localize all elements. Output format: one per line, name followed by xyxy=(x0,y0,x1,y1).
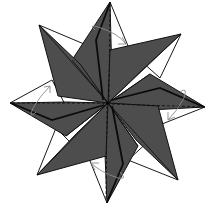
origami-star-diagram xyxy=(0,0,215,205)
center-point xyxy=(106,101,109,104)
